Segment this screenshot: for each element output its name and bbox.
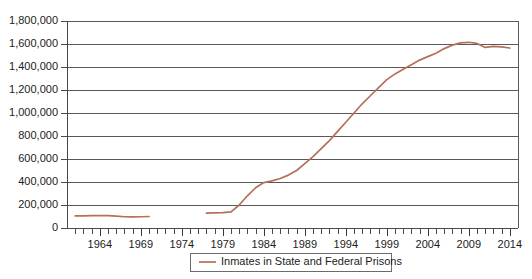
legend[interactable]: Inmates in State and Federal Prisons (191, 254, 403, 272)
gridlines-group (67, 22, 518, 229)
y-axis-tick-label: 1,000,000 (9, 106, 58, 118)
legend-item-label: Inmates in State and Federal Prisons (221, 255, 402, 267)
y-axis-tick-labels: 0200,000400,000600,000800,0001,000,0001,… (9, 14, 67, 233)
series-line-inmates-segment-0 (75, 216, 149, 217)
x-axis-tick-label: 2004 (416, 238, 440, 250)
x-axis-tick-label: 1979 (211, 238, 235, 250)
x-axis-tick-label: 1994 (334, 238, 358, 250)
chart-container: 0200,000400,000600,000800,0001,000,0001,… (0, 0, 532, 279)
prison-population-line-chart: 0200,000400,000600,000800,0001,000,0001,… (0, 0, 532, 279)
y-axis-tick-label: 400,000 (18, 175, 58, 187)
x-axis-tick-labels: 1964196919741979198419891994199920042009… (88, 238, 522, 250)
x-axis-tick-label: 2014 (498, 238, 522, 250)
x-axis-tick-label: 1984 (252, 238, 276, 250)
y-axis-tick-label: 1,600,000 (9, 37, 58, 49)
x-axis-tick-label: 1974 (170, 238, 194, 250)
y-axis-tick-label: 1,200,000 (9, 83, 58, 95)
x-axis-tick-label: 1989 (293, 238, 317, 250)
y-axis-tick-label: 0 (52, 221, 58, 233)
y-axis-tick-label: 600,000 (18, 152, 58, 164)
y-axis-tick-label: 800,000 (18, 129, 58, 141)
x-axis-tick-label: 1964 (88, 238, 112, 250)
x-axis-tick-marks (61, 229, 518, 236)
y-axis-tick-label: 1,800,000 (9, 14, 58, 26)
data-series-group (75, 42, 510, 217)
y-axis-tick-label: 200,000 (18, 198, 58, 210)
x-axis-tick-label: 1999 (375, 238, 399, 250)
x-axis-tick-label: 1969 (129, 238, 153, 250)
x-axis-tick-label: 2009 (457, 238, 481, 250)
y-axis-tick-label: 1,400,000 (9, 60, 58, 72)
